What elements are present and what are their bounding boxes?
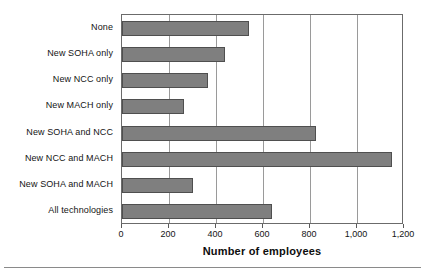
category-label: None (0, 14, 117, 40)
bar[interactable] (122, 73, 208, 88)
bar-series (122, 15, 402, 223)
bar[interactable] (122, 204, 272, 219)
axis-tick-label: 400 (207, 230, 222, 239)
axis-tick (403, 224, 404, 228)
category-label: New NCC only (0, 67, 117, 93)
bar[interactable] (122, 99, 184, 114)
bar[interactable] (122, 178, 193, 193)
category-label: New NCC and MACH (0, 145, 117, 171)
bar-chart-figure: NoneNew SOHA onlyNew NCC onlyNew MACH on… (0, 0, 425, 277)
value-axis: 02004006008001,0001,200 (0, 224, 425, 246)
bar-row (122, 94, 402, 120)
footer-divider (4, 267, 421, 268)
axis-tick-label: 1,000 (345, 230, 368, 239)
category-label: New SOHA only (0, 40, 117, 66)
bar-row (122, 68, 402, 94)
axis-tick (262, 224, 263, 228)
axis-tick-label: 800 (301, 230, 316, 239)
category-axis-labels: NoneNew SOHA onlyNew NCC onlyNew MACH on… (0, 14, 117, 224)
axis-tick-label: 200 (160, 230, 175, 239)
bar-row (122, 15, 402, 41)
bar[interactable] (122, 47, 225, 62)
axis-tick (168, 224, 169, 228)
axis-tick-label: 1,200 (392, 230, 415, 239)
category-label: New SOHA and MACH (0, 172, 117, 198)
category-label: New MACH only (0, 93, 117, 119)
bar[interactable] (122, 126, 316, 141)
axis-tick (309, 224, 310, 228)
axis-tick (356, 224, 357, 228)
x-axis-title: Number of employees (121, 245, 403, 257)
axis-tick-label: 0 (118, 230, 123, 239)
category-label: All technologies (0, 198, 117, 224)
axis-tick (215, 224, 216, 228)
bar-row (122, 146, 402, 172)
category-label: New SOHA and NCC (0, 119, 117, 145)
bar-row (122, 41, 402, 67)
bar-row (122, 173, 402, 199)
bar[interactable] (122, 21, 249, 36)
bar-row (122, 199, 402, 225)
axis-tick-label: 600 (254, 230, 269, 239)
bar-row (122, 120, 402, 146)
plot-area (121, 14, 403, 224)
axis-tick (121, 224, 122, 228)
bar[interactable] (122, 152, 392, 167)
